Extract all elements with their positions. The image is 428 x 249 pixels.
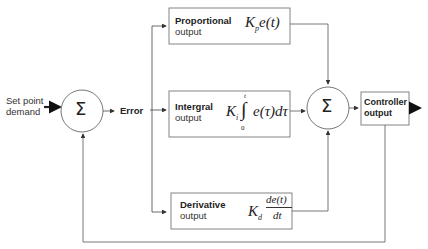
controller-output-line1: Controller [364, 97, 407, 108]
sigma-icon-1: Σ [75, 98, 86, 119]
derivative-denominator: dt [273, 209, 282, 221]
fraction-bar [266, 207, 292, 208]
setpoint-label-line1: Set point [6, 95, 44, 106]
integral-title: Intergral [175, 101, 213, 112]
derivative-formula-k: Kd [248, 203, 262, 222]
integral-lower-limit: 0 [241, 124, 245, 132]
proportional-formula: Kpe(t) [245, 14, 280, 33]
setpoint-label-line2: demand [6, 106, 40, 117]
integral-formula: Ki [226, 103, 238, 122]
error-label: Error [120, 105, 143, 116]
proportional-title: Proportional [175, 15, 231, 26]
derivative-subtitle: output [180, 210, 206, 221]
proportional-subtitle: output [175, 26, 201, 37]
integral-subtitle: output [175, 112, 201, 123]
controller-output-line2: output [364, 108, 392, 119]
integral-sign: ∫ [241, 98, 246, 121]
integral-upper-limit: t [244, 92, 246, 100]
diagram-canvas [0, 0, 428, 249]
sigma-icon-2: Σ [321, 95, 332, 116]
derivative-title: Derivative [180, 199, 225, 210]
integral-integrand: e(τ)dτ [253, 103, 288, 120]
derivative-numerator: de(t) [266, 193, 287, 205]
